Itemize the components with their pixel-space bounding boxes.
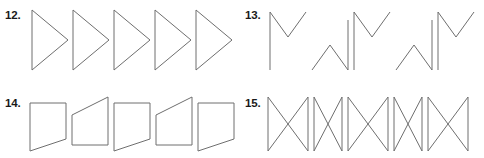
m-zigzag-3 — [354, 12, 390, 70]
slanted-quadrilateral-4 — [156, 97, 192, 145]
figure-group-13 — [264, 4, 478, 78]
figure-panel-14: 14. — [0, 79, 242, 158]
triangle-arrowhead-4 — [155, 10, 191, 70]
panel-number-14: 14. — [5, 97, 20, 109]
m-zigzag-1 — [270, 12, 306, 70]
bowtie-hourglass-2 — [314, 97, 342, 151]
slanted-quadrilateral-1 — [30, 103, 66, 151]
figure-panel-15: 15. — [242, 79, 484, 158]
slanted-quadrilateral-2 — [72, 97, 108, 145]
panel-number-12: 12. — [5, 9, 20, 21]
figure-group-14 — [24, 93, 236, 155]
m-zigzag-4 — [396, 20, 432, 70]
figure-panel-12: 12. — [0, 0, 242, 79]
figure-group-12 — [24, 6, 236, 74]
m-zigzag-2 — [312, 20, 348, 70]
panel-number-13: 13. — [245, 9, 260, 21]
m-zigzag-5 — [438, 12, 474, 70]
bowtie-hourglass-5 — [428, 97, 468, 151]
slanted-quadrilateral-5 — [198, 103, 234, 151]
worksheet-sheet: 12. 13. 14. 15. — [0, 0, 484, 158]
figure-group-15 — [264, 93, 478, 155]
triangle-arrowhead-5 — [196, 10, 232, 70]
triangle-arrowhead-3 — [114, 10, 150, 70]
panel-number-15: 15. — [245, 97, 260, 109]
bowtie-hourglass-4 — [394, 97, 422, 151]
triangle-arrowhead-2 — [73, 10, 109, 70]
triangle-arrowhead-1 — [32, 10, 68, 70]
slanted-quadrilateral-3 — [114, 103, 150, 151]
bowtie-hourglass-3 — [348, 97, 388, 151]
figure-panel-13: 13. — [242, 0, 484, 79]
bowtie-hourglass-1 — [268, 97, 308, 151]
